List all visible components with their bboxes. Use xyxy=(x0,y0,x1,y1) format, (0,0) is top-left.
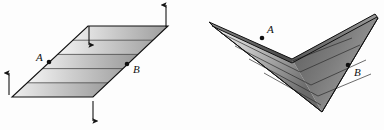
point-a-marker-flat xyxy=(47,60,52,65)
point-a-label-bent: A xyxy=(266,23,274,35)
figure-svg: A B xyxy=(0,0,384,130)
panel-bent-sheet: A B xyxy=(209,14,378,112)
panel-flat-sheet: A B xyxy=(9,5,168,121)
point-b-label-flat: B xyxy=(133,63,140,75)
flat-strip-3 xyxy=(42,54,138,68)
point-b-marker-flat xyxy=(125,62,130,67)
point-a-marker-bent xyxy=(260,36,265,41)
point-a-label-flat: A xyxy=(35,51,43,63)
flat-strip-1 xyxy=(73,26,168,40)
flat-strip-4 xyxy=(27,69,123,83)
flat-strip-5 xyxy=(12,83,108,97)
figure-container: A B xyxy=(0,0,384,130)
point-b-marker-bent xyxy=(346,63,351,68)
point-b-label-bent: B xyxy=(354,66,361,78)
flat-strip-2 xyxy=(58,40,153,54)
